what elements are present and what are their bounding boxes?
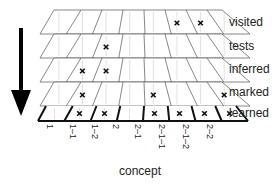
concept-tick-1: 1 [45, 124, 54, 129]
concept-tick-2-1-1: 2–1–1 [157, 124, 166, 149]
layer-label-marked: marked [229, 86, 269, 98]
layer-learned [38, 106, 248, 121]
concept-tick-2: 2 [111, 124, 120, 129]
concept-tick-2-2: 2–2 [205, 124, 214, 139]
layer-marked [40, 82, 250, 106]
layer-label-inferred: inferred [229, 63, 270, 75]
layer-label-visited: visited [229, 16, 263, 28]
arrow-down-icon [10, 28, 32, 118]
concept-tick-2-1-2: 2–1–2 [181, 124, 190, 149]
layered-concept-diagram: visited tests inferred marked learned 1 … [0, 0, 280, 185]
layer-inferred [40, 58, 250, 82]
column-divider [143, 106, 144, 121]
x-axis-label: concept [119, 164, 161, 178]
layer-label-tests: tests [229, 40, 254, 52]
concept-tick-1-2: 1–2 [90, 124, 99, 139]
concept-tick-2-1: 2–1 [133, 124, 142, 139]
layer-visited [40, 10, 250, 34]
layer-label-learned: learned [229, 107, 269, 119]
layer-tests [40, 34, 250, 58]
concept-tick-1-1: 1–1 [68, 124, 77, 139]
